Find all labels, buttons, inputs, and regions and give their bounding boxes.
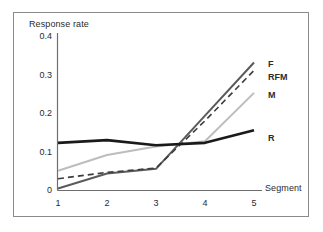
- x-tick-label-3: 4: [197, 198, 213, 208]
- series-line-rfm: [58, 70, 254, 178]
- axis-lines: [58, 33, 263, 191]
- y-tick-label-3: 0.1: [30, 147, 52, 157]
- x-tick-label-0: 1: [50, 198, 66, 208]
- series-label-m: M: [268, 90, 276, 100]
- series-label-f: F: [268, 59, 274, 69]
- chart-figure: Response rate Segment 0.4 0.3 0.2 0.1 0 …: [0, 0, 323, 232]
- x-axis-title: Segment: [265, 183, 302, 193]
- series-label-r: R: [268, 133, 275, 143]
- series-line-m: [58, 93, 254, 171]
- series-line-f: [58, 63, 254, 189]
- y-tick-label-4: 0: [30, 185, 52, 195]
- data-series-group: [58, 63, 254, 189]
- x-tick-label-1: 2: [99, 198, 115, 208]
- series-label-rfm: RFM: [268, 72, 288, 82]
- y-axis-title: Response rate: [29, 19, 89, 29]
- y-tick-label-2: 0.2: [30, 108, 52, 118]
- y-tick-label-1: 0.3: [30, 70, 52, 80]
- y-tick-label-0: 0.4: [30, 31, 52, 41]
- x-tick-label-2: 3: [148, 198, 164, 208]
- series-line-r: [58, 130, 254, 145]
- x-tick-label-4: 5: [246, 198, 262, 208]
